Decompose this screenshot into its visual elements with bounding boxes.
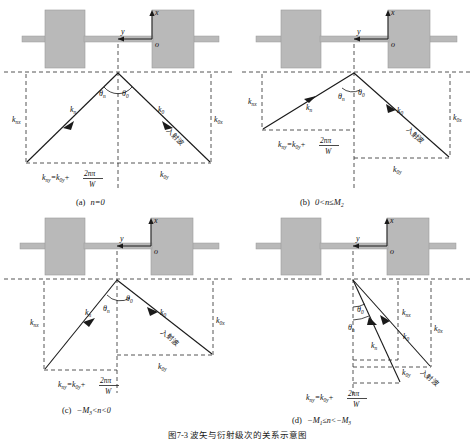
- fraction-denominator-d: W: [353, 400, 360, 409]
- svg-text:kny=k0y+: kny=k0y+: [58, 380, 86, 390]
- kn-label-d: kn: [371, 341, 378, 351]
- k0y-label-a: k0y: [160, 170, 169, 180]
- panel-c: x y o θn θ0 kn k0: [0, 215, 237, 430]
- theta-0-label-d: θ0: [357, 305, 364, 315]
- angle-arc-thetan-d: [353, 316, 369, 320]
- theta-n-label-d: θn: [348, 323, 355, 333]
- svg-text:kny=k0y+: kny=k0y+: [278, 140, 306, 150]
- axis-y-label-a: y: [120, 27, 125, 36]
- fraction-numerator-c: 2nπ: [100, 376, 112, 385]
- knx-label-d: knx: [402, 308, 411, 318]
- theta-n-label-c: θn: [103, 304, 110, 314]
- knx-label-a: knx: [12, 115, 21, 125]
- panel-a: x y o θn: [0, 0, 237, 215]
- k0-label-b: k0: [397, 106, 404, 116]
- caption-d: (d)−M1≤n<−M3: [292, 415, 351, 426]
- origin-label-d: o: [390, 247, 394, 256]
- kn-label-a: kn: [70, 105, 77, 115]
- vector-k0-d: [353, 280, 430, 366]
- equation-d: kny=k0y+ 2nπ W: [306, 389, 367, 409]
- knx-label-b: knx: [248, 97, 257, 107]
- construction-lines-a: [26, 74, 211, 163]
- equation-c: kny=k0y+ 2nπ W: [58, 376, 119, 396]
- fraction-numerator-a: 2nπ: [84, 169, 96, 178]
- construction-lines-d: [353, 281, 431, 383]
- axis-y-label-b: y: [356, 27, 361, 36]
- incident-wave-label-d: 入射波: [419, 368, 441, 388]
- panel-d: x y o θ0 θn: [238, 215, 475, 430]
- k0y-label-b: k0y: [393, 165, 402, 175]
- fraction-denominator-c: W: [105, 387, 112, 396]
- figure-wavevector-diffraction-orders: x y o θn: [0, 0, 475, 439]
- equation-a: kny=k0y+ 2nπ W: [42, 169, 103, 189]
- axis-y-label-d: y: [355, 234, 360, 243]
- theta-n-label-a: θn: [99, 89, 106, 99]
- k0x-label-b: k0x: [453, 113, 462, 123]
- knx-label-c: knx: [30, 318, 39, 328]
- panel-b: x y o θn θ0 kn k0: [238, 0, 475, 215]
- k0-label-a: k0: [158, 105, 165, 115]
- vector-kn-c: [45, 280, 117, 369]
- k0x-label-a: k0x: [214, 115, 223, 125]
- fraction-numerator-b: 2nπ: [320, 136, 332, 145]
- equation-b: kny=k0y+ 2nπ W: [278, 136, 339, 156]
- incident-wave-label-c: 入射波: [159, 327, 181, 347]
- fraction-numerator-d: 2nπ: [348, 389, 360, 398]
- caption-c: (c)−M3<n<0: [62, 405, 111, 416]
- kn-label-b: kn: [306, 103, 313, 113]
- svg-text:kny=k0y+: kny=k0y+: [306, 393, 334, 403]
- vector-kn-a: [27, 73, 118, 162]
- caption-b: (b)0<n≤M2: [300, 197, 344, 208]
- k0-label-d: k0: [403, 332, 410, 342]
- theta-0-label-b: θ0: [358, 88, 365, 98]
- origin-label-c: o: [154, 247, 158, 256]
- theta-n-label-b: θn: [338, 92, 345, 102]
- vector-kn-b: [263, 73, 354, 129]
- k0y-label-d: k0y: [402, 368, 411, 378]
- axis-y-label-c: y: [119, 234, 124, 243]
- caption-a: (a)n=0: [76, 197, 105, 207]
- axis-x-label-d: x: [389, 216, 394, 225]
- fraction-denominator-b: W: [325, 147, 332, 156]
- axis-x-label-c: x: [153, 216, 158, 225]
- k0x-label-d: k0x: [434, 324, 443, 334]
- svg-text:kny=k0y+: kny=k0y+: [42, 173, 70, 183]
- k0-label-c: k0: [160, 308, 167, 318]
- figure-bottom-caption: 图7-3 波矢与衍射级次的关系示意图: [0, 430, 475, 439]
- k0y-label-c: k0y: [158, 362, 167, 372]
- theta-0-label-c: θ0: [126, 294, 133, 304]
- kn-label-c: kn: [85, 308, 92, 318]
- origin-label-b: o: [391, 40, 395, 49]
- fraction-denominator-a: W: [89, 180, 96, 189]
- axis-x-label-b: x: [390, 8, 395, 17]
- vector-k0-a: [118, 73, 210, 162]
- axis-x-label-a: x: [154, 8, 159, 17]
- k0x-label-c: k0x: [216, 316, 225, 326]
- origin-label-a: o: [155, 40, 159, 49]
